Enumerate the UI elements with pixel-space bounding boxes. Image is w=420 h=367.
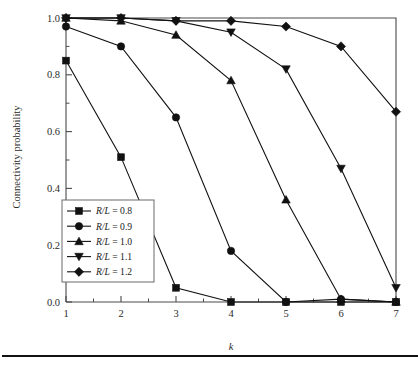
marker-square [63, 57, 70, 64]
legend-label: R/L = 1.1 [95, 251, 132, 262]
x-tick-label: 7 [393, 308, 398, 319]
x-tick-label: 2 [118, 308, 123, 319]
marker-circle [75, 223, 82, 230]
x-tick-label: 1 [63, 308, 68, 319]
legend-label: R/L = 1.2 [95, 266, 132, 277]
x-tick-label: 4 [228, 308, 234, 319]
marker-square [173, 284, 180, 291]
legend-label: R/L = 1.0 [95, 236, 132, 247]
y-tick-label: 0.8 [47, 69, 60, 80]
marker-circle [62, 23, 69, 30]
x-axis-title: k [229, 341, 234, 352]
y-tick-label: 0.4 [47, 183, 61, 194]
y-axis-title: Connectivity probability [11, 105, 22, 209]
y-tick-label: 0.0 [47, 297, 60, 308]
marker-square [76, 208, 83, 215]
marker-circle [282, 298, 289, 305]
figure-container: 1234567 0.00.20.40.60.81.0 k Connectivit… [0, 0, 420, 367]
y-tick-label: 0.6 [47, 126, 60, 137]
x-tick-label: 6 [338, 308, 343, 319]
legend-label: R/L = 0.9 [95, 221, 132, 232]
y-tick-label: 0.2 [47, 240, 60, 251]
marker-circle [172, 114, 179, 121]
legend-label: R/L = 0.8 [95, 205, 132, 216]
marker-square [228, 299, 235, 306]
x-tick-label: 3 [173, 308, 178, 319]
chart-legend: R/L = 0.8R/L = 0.9R/L = 1.0R/L = 1.1R/L … [62, 200, 154, 282]
marker-square [118, 154, 125, 161]
y-tick-label: 1.0 [47, 13, 60, 24]
connectivity-probability-chart: 1234567 0.00.20.40.60.81.0 k Connectivit… [0, 0, 420, 367]
x-tick-label: 5 [283, 308, 288, 319]
marker-circle [117, 43, 124, 50]
marker-circle [227, 247, 234, 254]
